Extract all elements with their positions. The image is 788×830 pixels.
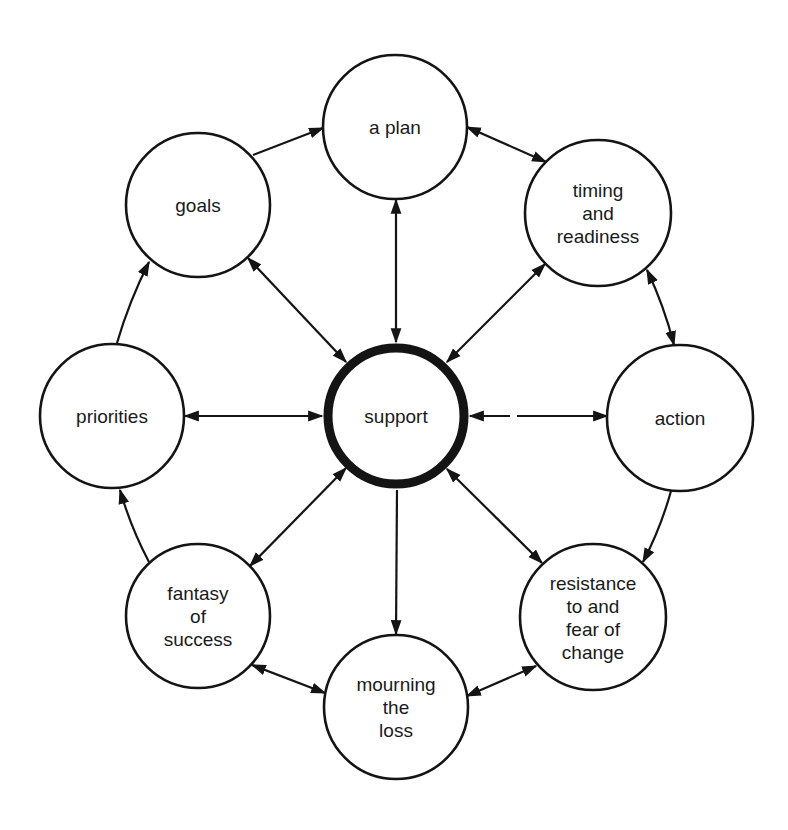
arrow-line: [467, 666, 536, 696]
node-timing-and-readiness: timingandreadiness: [525, 140, 671, 286]
spoke-arrow-support-to-mourning-the-loss: [396, 490, 397, 634]
node-label: mourning: [356, 674, 435, 695]
node-label: and: [582, 203, 614, 224]
spoke-arrow-support-to-resistance-to-and-fear-of-change: [447, 469, 542, 563]
node-label: priorities: [76, 406, 148, 427]
cycle-arrow-resistance-to-and-fear-of-change-to-mourning-the-loss: [467, 666, 536, 696]
arrow-line: [248, 258, 346, 362]
node-label: change: [562, 642, 624, 663]
node-label: resistance: [550, 573, 637, 594]
arrow-line: [643, 491, 671, 562]
arrow-line: [396, 490, 397, 634]
node-label: fantasy: [167, 583, 229, 604]
arrow-line: [250, 468, 346, 566]
cycle-arrow-goals-to-a-plan: [253, 128, 323, 155]
node-label: to and: [567, 596, 620, 617]
arrow-line: [447, 469, 542, 563]
arrow-line: [253, 128, 323, 155]
node-label: support: [364, 406, 428, 427]
arrow-line: [120, 490, 149, 562]
arrow-line: [647, 270, 674, 345]
node-goals: goals: [126, 133, 270, 277]
node-label: loss: [379, 720, 413, 741]
support-cycle-diagram: a plantimingandreadinessactionresistance…: [0, 0, 788, 830]
spoke-arrow-support-to-timing-and-readiness: [447, 264, 545, 362]
node-mourning-the-loss: mourningtheloss: [324, 635, 468, 779]
node-label: the: [383, 697, 409, 718]
spoke-arrow-support-to-goals: [248, 258, 346, 362]
arrow-line: [117, 262, 149, 343]
node-label: readiness: [557, 226, 639, 247]
node-priorities: priorities: [40, 344, 184, 488]
nodes-layer: a plantimingandreadinessactionresistance…: [40, 55, 753, 779]
cycle-arrow-priorities-to-goals: [117, 262, 149, 343]
arrow-line: [447, 264, 545, 362]
cycle-arrow-fantasy-of-success-to-mourning-the-loss: [252, 665, 325, 693]
node-resistance-to-and-fear-of-change: resistanceto andfear ofchange: [520, 544, 666, 690]
node-label: fear of: [566, 619, 621, 640]
node-action: action: [607, 345, 753, 491]
node-fantasy-of-success: fantasyofsuccess: [126, 544, 270, 688]
arrow-line: [467, 127, 546, 162]
arrow-line: [252, 665, 325, 693]
cycle-arrow-action-to-resistance-to-and-fear-of-change: [643, 491, 671, 562]
node-label: a plan: [369, 117, 421, 138]
node-a-plan: a plan: [323, 55, 467, 199]
cycle-arrow-a-plan-to-timing-and-readiness: [467, 127, 546, 162]
node-label: action: [655, 408, 706, 429]
cycle-arrow-fantasy-of-success-to-priorities: [120, 490, 149, 562]
node-label: timing: [573, 180, 624, 201]
spoke-arrow-support-to-fantasy-of-success: [250, 468, 346, 566]
node-circle: [520, 544, 666, 690]
cycle-arrow-timing-and-readiness-to-action: [647, 270, 674, 345]
node-label: success: [164, 629, 233, 650]
node-label: of: [190, 606, 207, 627]
node-label: goals: [175, 195, 220, 216]
node-support: support: [328, 348, 464, 484]
